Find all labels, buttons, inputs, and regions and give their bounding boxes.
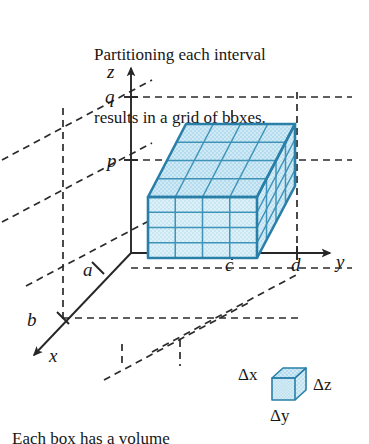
mini-cube-front-face bbox=[272, 378, 295, 400]
tick-label-b: b bbox=[27, 309, 37, 330]
tick-label-p: p bbox=[105, 150, 117, 171]
tick-label-c: c bbox=[225, 254, 234, 275]
tick-label-a: a bbox=[83, 259, 93, 280]
tick-a bbox=[92, 262, 104, 274]
dashed-diagonal-lower-right bbox=[152, 273, 300, 352]
dashed-diagonal-mid bbox=[26, 215, 160, 286]
partitioned-box bbox=[148, 124, 295, 258]
dashed-diagonal-top bbox=[2, 80, 152, 160]
bottom-caption-line-1: Each box has a volume bbox=[12, 428, 170, 444]
tick-label-d: d bbox=[291, 254, 301, 275]
coordinate-box-diagram: z y x q p a b c d Δx Δz Δy bbox=[0, 0, 369, 444]
mini-cube-dz-label: Δz bbox=[313, 375, 332, 394]
y-axis-label: y bbox=[334, 251, 345, 272]
z-axis-label: z bbox=[106, 61, 115, 82]
dashed-diagonal-bottom bbox=[104, 302, 250, 380]
x-axis-label: x bbox=[48, 345, 58, 366]
mini-cube-legend: Δx Δz Δy bbox=[238, 365, 332, 425]
tick-label-q: q bbox=[105, 86, 115, 107]
mini-cube-dx-label: Δx bbox=[238, 365, 258, 384]
figure-bottom-caption: Each box has a volume ΔV = ΔxΔyΔz. bbox=[12, 386, 170, 444]
mini-cube-dy-label: Δy bbox=[270, 406, 290, 425]
figure-canvas: Partitioning each interval results in a … bbox=[0, 0, 369, 444]
dashed-diagonal-upper bbox=[2, 143, 152, 222]
